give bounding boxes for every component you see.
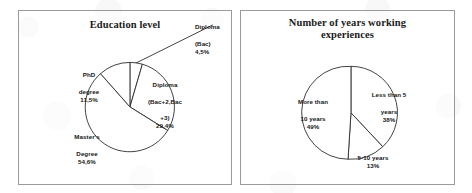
experience-years-chart-panel: Number of years working experiences Less… bbox=[240, 10, 455, 185]
label-less-than-5-years: Less than 5 years 38% bbox=[361, 83, 417, 132]
label-5-10-years: 5-10 years 13% bbox=[345, 146, 401, 179]
label-phd-line2: degree bbox=[79, 88, 100, 95]
label-diploma-bac23-percent: 29,4% bbox=[137, 122, 193, 130]
label-diploma-bac-line2: (Bac) bbox=[195, 40, 211, 47]
label-less-than-5-line2: years bbox=[381, 108, 397, 115]
label-more-than-10-percent: 49% bbox=[285, 123, 341, 131]
label-masters-percent: 54,6% bbox=[61, 158, 113, 166]
label-diploma-bac-line1: Diploma bbox=[195, 23, 220, 30]
label-5-10-years-percent: 13% bbox=[345, 162, 401, 170]
label-diploma-bac: Diploma (Bac) 4,5% bbox=[195, 15, 241, 64]
label-diploma-bac23-line2: (Bac+2,Bac bbox=[148, 98, 182, 105]
label-more-than-10-years: More than 10 years 49% bbox=[285, 90, 341, 139]
label-more-than-10-line1: More than bbox=[298, 98, 328, 105]
label-diploma-bac23-line3: +3) bbox=[160, 114, 169, 121]
label-5-10-years-line1: 5-10 years bbox=[358, 154, 389, 161]
label-diploma-bac-percent: 4,5% bbox=[195, 48, 241, 56]
label-less-than-5-percent: 38% bbox=[361, 116, 417, 124]
label-diploma-bac23-line1: Diploma bbox=[153, 81, 178, 88]
education-level-chart-panel: Education level PhD degree 11,5% Diploma… bbox=[18, 10, 232, 185]
label-masters-degree: Master's Degree 54,6% bbox=[61, 125, 113, 174]
label-phd-line1: PhD bbox=[83, 71, 96, 78]
label-phd-percent: 11,5% bbox=[67, 96, 111, 104]
label-more-than-10-line2: 10 years bbox=[300, 115, 325, 122]
label-masters-line1: Master's bbox=[74, 133, 99, 140]
label-diploma-bac23: Diploma (Bac+2,Bac +3) 29,4% bbox=[137, 73, 193, 139]
label-masters-line2: Degree bbox=[76, 150, 97, 157]
label-less-than-5-line1: Less than 5 bbox=[372, 91, 407, 98]
label-phd-degree: PhD degree 11,5% bbox=[67, 63, 111, 112]
